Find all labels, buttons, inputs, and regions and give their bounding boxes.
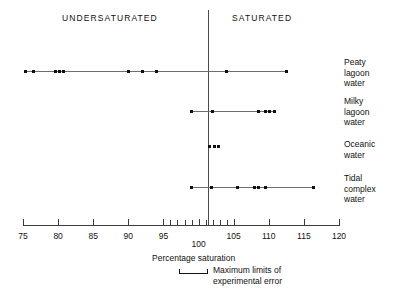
x-axis: [23, 225, 339, 226]
data-point: [208, 145, 211, 148]
axis-tick-major: [304, 219, 305, 226]
undersaturated-header: UNDERSATURATED: [62, 13, 158, 23]
data-point: [54, 70, 57, 73]
data-point: [253, 186, 256, 189]
row-label: Tidalcomplexwater: [344, 173, 376, 205]
data-point: [236, 186, 239, 189]
axis-tick-label: 95: [159, 231, 168, 241]
reference-line-100: [208, 10, 209, 226]
row-label-line: water: [344, 150, 375, 161]
axis-tick-minor: [213, 220, 214, 226]
row-label-line: Oceanic: [344, 139, 375, 150]
row-label: Milkylagoonwater: [344, 96, 370, 128]
chart-canvas: UNDERSATURATED SATURATED Peatylagoonwate…: [0, 0, 410, 297]
data-point: [155, 70, 158, 73]
axis-tick-label: 75: [18, 231, 27, 241]
axis-tick-label: 105: [227, 231, 241, 241]
data-point: [264, 110, 267, 113]
row-label-line: Milky: [344, 96, 370, 107]
data-point: [213, 145, 216, 148]
axis-tick-label: 100: [191, 239, 205, 249]
data-point: [190, 186, 193, 189]
saturated-header: SATURATED: [232, 13, 292, 23]
row-range-line: [192, 111, 275, 112]
data-point: [264, 186, 267, 189]
axis-tick-major: [199, 219, 200, 226]
axis-tick-minor: [170, 220, 171, 226]
axis-tick-major: [163, 219, 164, 226]
row-label-line: lagoon: [344, 68, 370, 79]
axis-tick-major: [128, 219, 129, 226]
axis-tick-minor: [177, 220, 178, 226]
axis-tick-label: 110: [262, 231, 276, 241]
data-point: [210, 186, 213, 189]
axis-tick-major: [234, 219, 235, 226]
error-legend-line2: experimental error: [213, 276, 282, 287]
data-point: [268, 110, 271, 113]
axis-tick-label: 80: [53, 231, 62, 241]
data-point: [257, 110, 260, 113]
axis-tick-minor: [220, 220, 221, 226]
axis-tick-major: [339, 219, 340, 226]
row-label: Oceanicwater: [344, 139, 375, 160]
row-label: Peatylagoonwater: [344, 57, 370, 89]
axis-tick-major: [58, 219, 59, 226]
data-point: [190, 110, 193, 113]
axis-tick-label: 90: [124, 231, 133, 241]
data-point: [225, 70, 228, 73]
row-label-line: complex: [344, 184, 376, 195]
axis-tick-label: 120: [332, 231, 346, 241]
row-label-line: water: [344, 117, 370, 128]
row-label-line: lagoon: [344, 107, 370, 118]
x-axis-label: Percentage saturation: [152, 253, 235, 263]
data-point: [127, 70, 130, 73]
axis-tick-minor: [192, 220, 193, 226]
data-point: [211, 110, 214, 113]
axis-tick-label: 115: [297, 231, 311, 241]
axis-tick-major: [23, 219, 24, 226]
data-point: [24, 70, 27, 73]
axis-tick-minor: [227, 220, 228, 226]
data-point: [141, 70, 144, 73]
error-bar-legend-marker: [179, 273, 208, 274]
data-point: [257, 186, 260, 189]
axis-tick-major: [93, 219, 94, 226]
row-label-line: water: [344, 194, 376, 205]
error-legend-line1: Maximum limits of: [213, 265, 282, 276]
row-label-line: Peaty: [344, 57, 370, 68]
data-point: [312, 186, 315, 189]
data-point: [273, 110, 276, 113]
data-point: [32, 70, 35, 73]
axis-tick-minor: [185, 220, 186, 226]
error-bar-legend-label: Maximum limits of experimental error: [213, 265, 282, 286]
axis-tick-major: [269, 219, 270, 226]
axis-tick-minor: [206, 220, 207, 226]
data-point: [62, 70, 65, 73]
data-point: [285, 70, 288, 73]
axis-tick-label: 85: [88, 231, 97, 241]
row-label-line: Tidal: [344, 173, 376, 184]
row-label-line: water: [344, 78, 370, 89]
data-point: [217, 145, 220, 148]
